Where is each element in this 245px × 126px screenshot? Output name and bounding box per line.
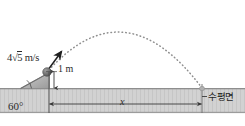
horizontal-range-label: x: [120, 97, 124, 107]
launch-angle-label: 60°: [8, 101, 23, 112]
initial-speed-label: 4√5 m/s: [7, 53, 39, 64]
speed-units: m/s: [22, 52, 39, 63]
projectile-ball: [43, 68, 52, 77]
figure-canvas: 4√5 m/s 1 m 60° x 수평면: [0, 0, 245, 126]
angle-value: 60: [8, 100, 19, 112]
launch-height-label: 1 m: [58, 64, 73, 74]
landing-marker: [199, 86, 204, 90]
ground-plane-label: 수평면: [208, 92, 234, 102]
trajectory-path: [49, 32, 202, 88]
degree-symbol-icon: °: [19, 100, 23, 112]
